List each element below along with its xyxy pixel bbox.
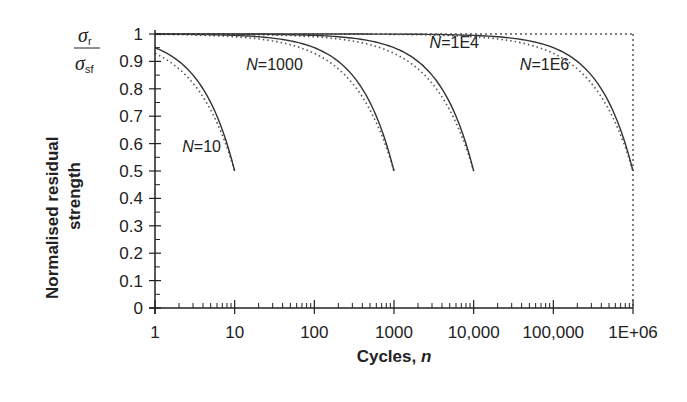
- y-tick-label: 0.3: [119, 217, 143, 236]
- y-tick-label: 1: [134, 25, 143, 44]
- x-tick-label: 10,000: [448, 323, 500, 342]
- y-tick-label: 0.1: [119, 272, 143, 291]
- chart: N=10N=1000N=1E4N=1E6 00.10.20.30.40.50.6…: [0, 0, 687, 402]
- y-axis-title-line2: strength: [65, 162, 84, 230]
- labels: Normalised residual strength σr σsf Cycl…: [43, 24, 431, 366]
- curve-label-N=10: N=10: [182, 138, 221, 155]
- sigma-ratio-label: σr σsf: [74, 24, 100, 75]
- x-tick-label: 1: [150, 323, 159, 342]
- y-tick-label: 0.5: [119, 162, 143, 181]
- y-tick-label: 0: [134, 299, 143, 318]
- y-tick-label: 0.2: [119, 244, 143, 263]
- sigma-denominator: σsf: [75, 52, 94, 75]
- x-tick-label: 1E+06: [608, 323, 658, 342]
- y-tick-label: 0.8: [119, 80, 143, 99]
- y-tick-label: 0.9: [119, 52, 143, 71]
- x-tick-label: 100,000: [523, 323, 584, 342]
- curve-label-N=1000: N=1000: [246, 56, 303, 73]
- curve-N=1E6-solid: [155, 34, 633, 171]
- curve-N=1E6-dotted: [155, 34, 633, 171]
- y-tick-label: 0.6: [119, 135, 143, 154]
- y-tick-label: 0.7: [119, 107, 143, 126]
- x-axis-title: Cycles, n: [357, 347, 432, 366]
- y-tick-label: 0.4: [119, 189, 143, 208]
- ticks: 00.10.20.30.40.50.60.70.80.9111010010001…: [119, 25, 657, 342]
- sigma-numerator: σr: [78, 24, 92, 47]
- curves: N=10N=1000N=1E4N=1E6: [155, 34, 633, 171]
- curve-label-N=1E6: N=1E6: [520, 56, 569, 73]
- y-axis-title-line1: Normalised residual: [43, 136, 62, 299]
- x-tick-label: 1000: [375, 323, 413, 342]
- x-tick-label: 100: [300, 323, 328, 342]
- x-tick-label: 10: [225, 323, 244, 342]
- curve-label-N=1E4: N=1E4: [430, 34, 479, 51]
